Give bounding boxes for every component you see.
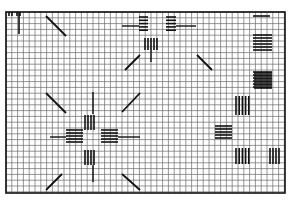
pattern-grid-diagram bbox=[0, 0, 298, 210]
stitch-marks bbox=[9, 12, 279, 190]
